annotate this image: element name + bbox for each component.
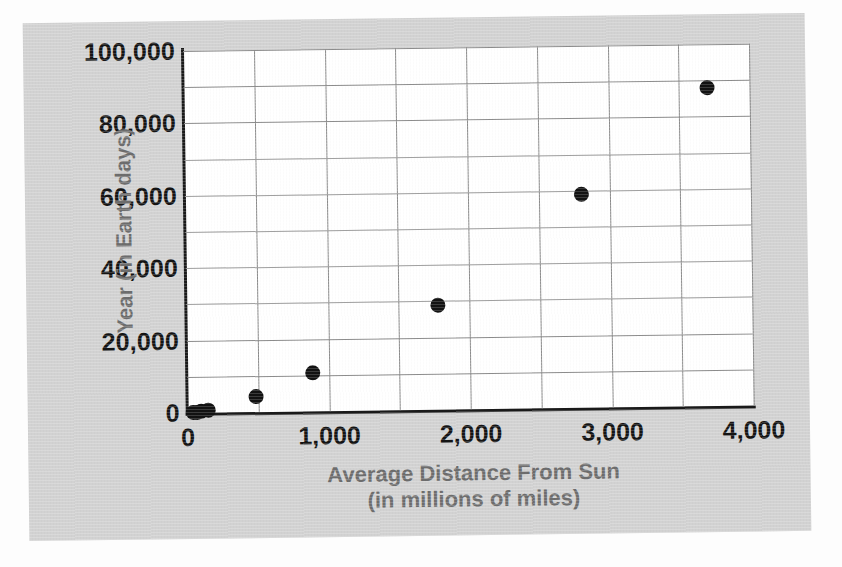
x-axis-tick-label: 1,000 [298, 421, 361, 451]
y-axis-title: Year (in Earth days) [109, 66, 139, 396]
x-axis-tick-label: 0 [181, 423, 195, 452]
chart-page: 020,00040,00060,00080,000100,000 01,0002… [0, 0, 842, 567]
data-point [200, 403, 215, 418]
x-axis-tick-label: 4,000 [723, 415, 786, 445]
data-point [431, 297, 446, 312]
plot-area [183, 44, 754, 413]
x-axis-tick-label: 2,000 [440, 419, 503, 449]
y-axis-tick-labels: 020,00040,00060,00080,000100,000 [23, 51, 180, 415]
data-point [574, 187, 589, 202]
x-axis-tick-label: 3,000 [581, 417, 644, 447]
data-point [699, 80, 714, 95]
panel-inner: 020,00040,00060,00080,000100,000 01,0002… [23, 13, 812, 541]
y-axis-tick-label: 0 [166, 399, 180, 428]
data-point [248, 389, 263, 404]
x-axis-tick-labels: 01,0002,0003,0004,000 [188, 416, 754, 457]
x-axis-title: Average Distance From Sun (in millions o… [178, 456, 769, 516]
y-axis-tick-label: 100,000 [84, 37, 175, 67]
scanned-page-panel: 020,00040,00060,00080,000100,000 01,0002… [23, 13, 812, 541]
data-point [306, 365, 321, 380]
